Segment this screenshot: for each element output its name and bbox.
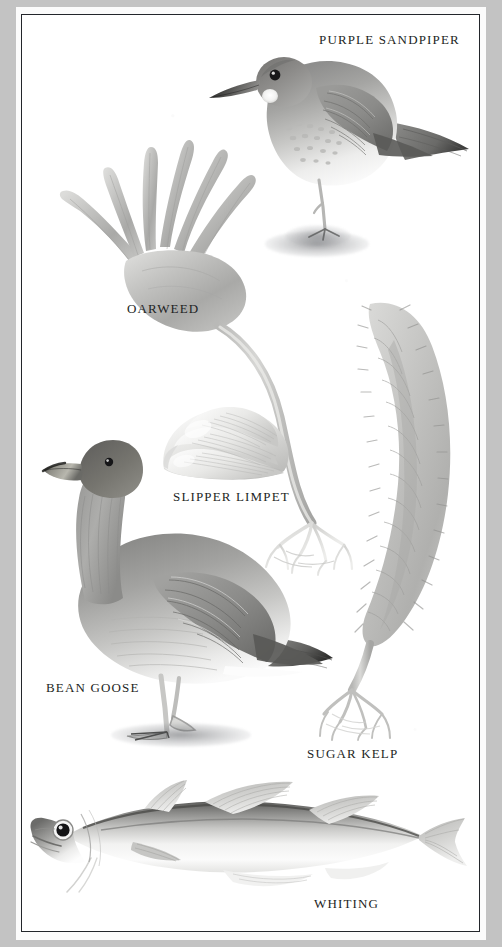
label-bean-goose: BEAN GOOSE (46, 681, 139, 694)
label-sugar-kelp: SUGAR KELP (307, 747, 398, 760)
figure-whiting (27, 770, 477, 900)
illustration-plate: PURPLE SANDPIPER (0, 0, 502, 947)
goose-eye (105, 458, 113, 466)
figure-sugar-kelp (322, 280, 480, 740)
label-purple-sandpiper: PURPLE SANDPIPER (319, 33, 460, 46)
whiting-body (70, 801, 423, 872)
goose-bill (43, 463, 83, 480)
goose-leg-rear (173, 678, 179, 718)
goose-ground (111, 723, 251, 747)
label-oarweed: OARWEED (127, 302, 199, 315)
sugar-kelp-margin-left (355, 306, 380, 632)
sugar-kelp-stipe (352, 644, 370, 690)
plate-border: PURPLE SANDPIPER (21, 14, 480, 932)
goose-head (79, 440, 143, 498)
label-whiting: WHITING (314, 897, 379, 910)
oarweed-blades (60, 140, 256, 265)
oarweed-base (124, 250, 246, 332)
whiting-anal-fin-2 (325, 862, 389, 879)
